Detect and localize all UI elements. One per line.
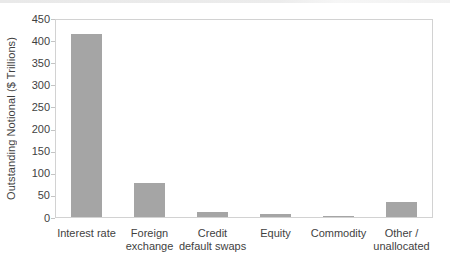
y-tick-label-450: 450 bbox=[20, 13, 50, 26]
bar-other-unallocated bbox=[386, 202, 417, 217]
top-divider-line bbox=[0, 0, 450, 3]
x-label-line: Other / bbox=[385, 227, 419, 240]
bar-equity bbox=[260, 214, 291, 217]
x-label-line: exchange bbox=[126, 240, 174, 253]
x-label-line: Foreign bbox=[131, 227, 168, 240]
y-tick-label-200: 200 bbox=[20, 123, 50, 136]
y-tick-mark-350 bbox=[51, 63, 55, 64]
y-axis-title: Outstanding Notional ($ Trillions) bbox=[5, 19, 17, 218]
y-tick-label-50: 50 bbox=[20, 189, 50, 202]
x-label-line: Commodity bbox=[311, 227, 367, 240]
x-label-other-unallocated: Other /unallocated bbox=[370, 227, 433, 253]
x-label-line: Equity bbox=[260, 227, 291, 240]
bar-commodity bbox=[323, 216, 354, 217]
y-tick-mark-150 bbox=[51, 152, 55, 153]
y-tick-mark-200 bbox=[51, 130, 55, 131]
bar-credit-default-swaps bbox=[197, 212, 228, 217]
y-tick-label-150: 150 bbox=[20, 145, 50, 158]
y-tick-label-300: 300 bbox=[20, 79, 50, 92]
y-tick-mark-300 bbox=[51, 85, 55, 86]
bar-interest-rate bbox=[71, 34, 102, 217]
x-label-interest-rate: Interest rate bbox=[55, 227, 118, 240]
y-tick-label-250: 250 bbox=[20, 101, 50, 114]
y-tick-label-0: 0 bbox=[20, 212, 50, 225]
y-tick-label-100: 100 bbox=[20, 167, 50, 180]
y-tick-label-400: 400 bbox=[20, 35, 50, 48]
y-tick-mark-400 bbox=[51, 41, 55, 42]
x-label-equity: Equity bbox=[244, 227, 307, 240]
x-label-commodity: Commodity bbox=[307, 227, 370, 240]
y-tick-mark-0 bbox=[51, 218, 55, 219]
x-label-line: Credit bbox=[198, 227, 227, 240]
plot-area bbox=[55, 19, 433, 218]
chart-figure: Outstanding Notional ($ Trillions) 05010… bbox=[0, 0, 450, 261]
x-label-line: Interest rate bbox=[57, 227, 116, 240]
x-label-credit-default-swaps: Creditdefault swaps bbox=[181, 227, 244, 253]
x-label-line: unallocated bbox=[373, 240, 429, 253]
y-tick-mark-250 bbox=[51, 107, 55, 108]
x-label-foreign-exchange: Foreignexchange bbox=[118, 227, 181, 253]
y-tick-mark-100 bbox=[51, 174, 55, 175]
y-tick-mark-450 bbox=[51, 19, 55, 20]
y-tick-label-350: 350 bbox=[20, 57, 50, 70]
y-tick-mark-50 bbox=[51, 196, 55, 197]
x-label-line: default swaps bbox=[179, 240, 246, 253]
bar-foreign-exchange bbox=[134, 183, 165, 217]
